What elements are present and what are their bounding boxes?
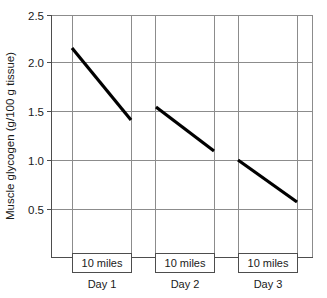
day-labels: Day 1 Day 2 Day 3 [88,278,283,290]
ytick-label-2.0: 2.0 [28,57,44,69]
activity-boxes: 10 miles 10 miles 10 miles [73,254,298,273]
ytick-label-2.5: 2.5 [28,10,44,22]
activity-box-label-day2: 10 miles [165,257,206,269]
data-segment-day2 [156,107,214,151]
glycogen-depletion-chart: 2.5 2.0 1.5 1.0 0.5 Muscle glycogen (g/1… [0,0,327,298]
y-axis-title: Muscle glycogen (g/100 g tissue) [4,52,16,220]
horizontal-gridlines [52,16,313,210]
axes [52,16,313,258]
data-series [72,48,297,202]
day-label-2: Day 2 [171,278,200,290]
data-segment-day3 [238,160,297,202]
ytick-label-1.0: 1.0 [28,155,44,167]
ytick-label-1.5: 1.5 [28,106,44,118]
y-tick-labels: 2.5 2.0 1.5 1.0 0.5 [28,10,44,216]
day-label-1: Day 1 [88,278,117,290]
chart-canvas: 2.5 2.0 1.5 1.0 0.5 Muscle glycogen (g/1… [0,0,327,298]
day-label-3: Day 3 [254,278,283,290]
activity-box-label-day1: 10 miles [82,257,123,269]
activity-box-label-day3: 10 miles [248,257,289,269]
data-segment-day1 [72,48,131,120]
ytick-label-0.5: 0.5 [28,204,44,216]
